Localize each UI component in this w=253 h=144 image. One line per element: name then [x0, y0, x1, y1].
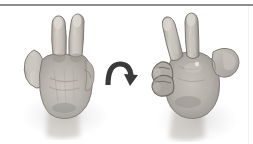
rotation-arrow-icon: [103, 56, 139, 88]
rotation-arrow-glyph: [103, 56, 139, 88]
right-hand-illustration: [143, 6, 249, 142]
figure-container: [0, 0, 253, 144]
hand-image-right: [143, 6, 249, 142]
